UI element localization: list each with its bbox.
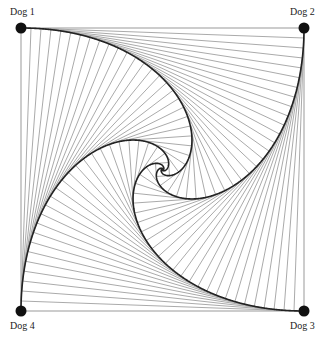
dog-2-marker bbox=[299, 23, 310, 34]
dog-1-marker bbox=[16, 23, 27, 34]
pursuit-diagram bbox=[0, 0, 330, 343]
dog-1-label: Dog 1 bbox=[10, 6, 35, 17]
dog-3-marker bbox=[299, 306, 310, 317]
dog-3-label: Dog 3 bbox=[290, 320, 315, 331]
dog-4-marker bbox=[16, 306, 27, 317]
sight-lines bbox=[21, 28, 304, 311]
dog-4-label: Dog 4 bbox=[10, 320, 35, 331]
dog-2-label: Dog 2 bbox=[290, 6, 315, 17]
